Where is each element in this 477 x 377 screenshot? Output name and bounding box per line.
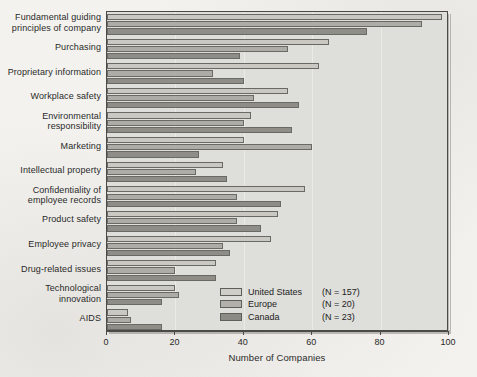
bar [107,285,175,291]
bar-group [107,86,447,111]
bar [107,78,244,84]
bar [107,211,278,217]
bar [107,236,271,242]
bar-group [107,110,447,135]
bar [107,299,162,305]
bar [107,144,312,150]
bar [107,243,223,249]
x-axis-title: Number of Companies [106,352,448,363]
category-label: Workplace safety [0,91,101,102]
x-tick [448,331,449,335]
bar [107,267,175,273]
bar [107,317,131,323]
x-tick [311,331,312,335]
legend-swatch-icon-united-states [220,288,242,296]
category-label: Proprietary information [0,67,101,78]
bar-chart-figure: Fundamental guidingprinciples of company… [0,0,477,377]
x-tick-label: 80 [375,337,385,347]
bar [107,21,422,27]
bar [107,194,237,200]
category-label: Technologicalinnovation [0,283,101,304]
bar [107,88,288,94]
x-tick-label: 100 [440,337,455,347]
bar [107,225,261,231]
bar [107,112,251,118]
bar [107,201,281,207]
bar [107,95,254,101]
bar [107,309,128,315]
x-tick [243,331,244,335]
bar-group [107,135,447,160]
x-tick [174,331,175,335]
category-label: Purchasing [0,42,101,53]
bar [107,46,288,52]
legend-item-united-states: United States (N = 157) [220,286,373,297]
legend-label-europe: Europe [248,299,322,309]
legend-label-united-states: United States [248,287,322,297]
bar [107,162,223,168]
category-label: Fundamental guidingprinciples of company [0,12,101,33]
bar [107,324,162,330]
x-tick-label: 20 [169,337,179,347]
x-tick [380,331,381,335]
legend-swatch-icon-europe [220,300,242,308]
legend-swatch-icon-canada [220,313,242,321]
bar [107,28,367,34]
legend-count-canada: (N = 23) [322,312,355,322]
bar [107,260,216,266]
bar-group [107,37,447,62]
category-label: Intellectual property [0,165,101,176]
bar-group [107,184,447,209]
bar-group [107,61,447,86]
bar-group [107,209,447,234]
bar [107,169,196,175]
bar [107,292,179,298]
legend-item-europe: Europe (N = 20) [220,299,373,310]
x-tick-label: 0 [103,337,108,347]
bar [107,39,329,45]
x-tick [106,331,107,335]
category-label: Drug-related issues [0,264,101,275]
bar [107,176,227,182]
x-tick-label: 60 [306,337,316,347]
legend-label-canada: Canada [248,312,322,322]
bar [107,127,292,133]
category-axis-labels: Fundamental guidingprinciples of company… [0,11,101,331]
bar-group [107,234,447,259]
bar [107,70,213,76]
x-tick-label: 40 [238,337,248,347]
category-label: Environmentalresponsibility [0,111,101,132]
legend-count-united-states: (N = 157) [322,287,360,297]
bar [107,137,244,143]
bar [107,275,216,281]
x-axis-line [106,331,448,332]
chart-legend: United States (N = 157) Europe (N = 20) … [214,282,378,326]
category-label: Product safety [0,214,101,225]
bar [107,102,299,108]
gridline-100 [449,12,450,330]
bar-group [107,160,447,185]
category-label: Employee privacy [0,239,101,250]
bar-group [107,258,447,283]
bar-group [107,12,447,37]
bar [107,250,230,256]
category-label: AIDS [0,313,101,324]
legend-item-canada: Canada (N = 23) [220,311,373,322]
category-label: Marketing [0,141,101,152]
bar [107,63,319,69]
bar [107,53,240,59]
bar [107,186,305,192]
bar [107,14,442,20]
bar [107,218,237,224]
bar [107,120,244,126]
category-label: Confidentiality ofemployee records [0,185,101,206]
bar [107,151,199,157]
legend-count-europe: (N = 20) [322,299,355,309]
